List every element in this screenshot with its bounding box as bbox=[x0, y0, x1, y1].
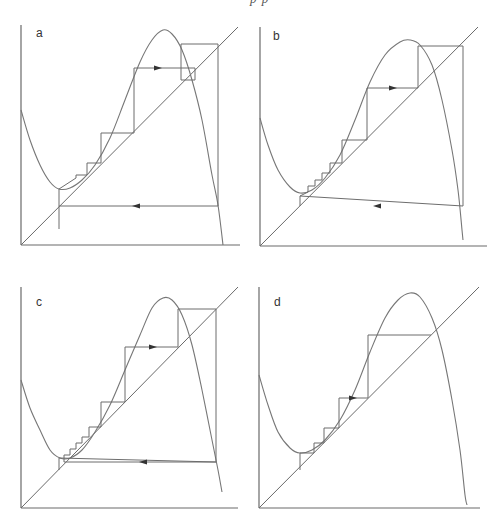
map-curve bbox=[259, 293, 467, 505]
identity-diagonal bbox=[260, 27, 478, 246]
identity-diagonal bbox=[21, 287, 238, 508]
arrow-right-icon bbox=[389, 86, 397, 91]
cobweb-figure: abcd bbox=[0, 0, 490, 526]
panel-label: d bbox=[274, 295, 281, 309]
panel-label: a bbox=[36, 26, 43, 40]
panel-a: a bbox=[21, 25, 240, 245]
arrow-right-icon bbox=[154, 66, 162, 71]
arrow-left-icon bbox=[132, 204, 140, 209]
panel-label: c bbox=[36, 295, 42, 309]
arrow-right-icon bbox=[149, 345, 157, 350]
panel-d: d bbox=[259, 287, 480, 508]
arrow-left-icon bbox=[373, 204, 381, 209]
identity-diagonal bbox=[259, 287, 479, 508]
map-curve bbox=[21, 30, 223, 245]
panel-b: b bbox=[260, 27, 487, 246]
arrow-right-icon bbox=[349, 396, 357, 401]
cobweb-orbit bbox=[300, 46, 463, 206]
panel-c: c bbox=[21, 287, 238, 508]
panel-label: b bbox=[273, 29, 280, 43]
map-curve bbox=[21, 297, 222, 492]
